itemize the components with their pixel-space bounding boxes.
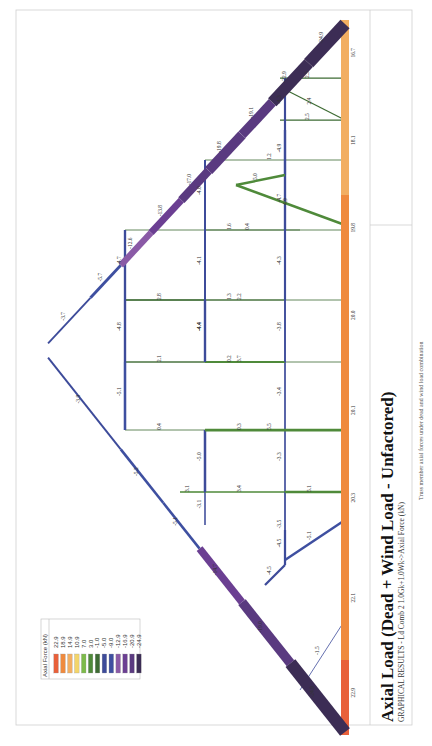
member-force-label: -4.9: [276, 144, 282, 153]
member-force-label: 18.1: [350, 135, 356, 145]
diagram-title: Axial Load (Dead + Wind Load - Unfactore…: [378, 392, 397, 722]
legend-value: 18.9: [60, 636, 66, 648]
member-force-label: -4.3: [276, 256, 282, 265]
member-force-label: -19.0: [257, 621, 263, 633]
member-force-label: -5.1: [306, 531, 312, 540]
legend-value: -5.0: [101, 637, 107, 648]
member-force-label: 16.7: [350, 48, 356, 58]
member-force-label: -4.5: [266, 566, 272, 575]
member-right-rafter: [90, 265, 120, 298]
member-force-label: 0.2: [226, 355, 232, 362]
member-force-label: -1.5: [314, 646, 320, 655]
member-left-rafter: [48, 358, 121, 450]
member-force-label: 0.4: [156, 423, 162, 430]
member-force-label: 19.8: [350, 223, 356, 233]
member-force-label: 22.9: [350, 688, 356, 698]
member-force-label: 0.4: [244, 223, 250, 230]
member-right-rafter: [48, 298, 90, 344]
legend-swatch: [75, 654, 80, 673]
member-force-label: 1.3: [226, 293, 232, 300]
legend-swatch: [95, 654, 100, 673]
member-right-rafter: [209, 135, 242, 171]
member-force-label: -4.7: [116, 256, 122, 265]
member-force-label: -19.8: [216, 141, 222, 153]
member-force-label: -3.3: [276, 452, 282, 461]
legend-swatch: [61, 654, 66, 673]
member-force-label: 0.3: [236, 423, 242, 430]
member-force-label: 20.1: [350, 405, 356, 415]
legend-swatch: [54, 654, 59, 673]
diagram-subtitle: GRAPHICAL RESULTS - Ld Comb 2 1.0Gk+1.0W…: [397, 502, 406, 722]
member-force-label: 5.0: [252, 173, 258, 180]
legend-value: -20.9: [129, 634, 135, 648]
member-force-label: -5.2: [133, 467, 139, 476]
legend-value: 3.0: [88, 639, 94, 648]
legend-swatch: [137, 654, 142, 673]
member-force-label: -5.1: [116, 387, 122, 396]
member-left-rafter: [163, 503, 199, 549]
member-force-label: 3.1: [184, 485, 190, 492]
legend-value: -9.0: [108, 637, 114, 648]
member-force-label: 2.2: [236, 293, 242, 300]
member-force-label: 5.1: [306, 485, 312, 492]
legend-swatch: [102, 654, 107, 673]
legend-value: 7.0: [81, 639, 87, 648]
member-force-label: 2.8: [156, 293, 162, 300]
legend-swatch: [109, 654, 114, 673]
member-force-label: -4.4: [196, 322, 202, 331]
member-force-label: -24.9: [318, 32, 324, 44]
member-force-label: -4.3: [276, 95, 282, 104]
member-force-label: -4.8: [116, 322, 122, 331]
legend-value: 22.9: [53, 636, 59, 648]
figure-caption: Truss member axial forces under dead and…: [418, 341, 424, 500]
member-force-label: 1.6: [226, 223, 232, 230]
legend-value: 10.9: [74, 636, 80, 648]
member-left-rafter: [200, 549, 242, 602]
member-force-label: -4.5: [276, 539, 282, 548]
page-border: [16, 10, 412, 725]
legend-value: 14.9: [67, 636, 73, 648]
member-force-label: -13.8: [157, 205, 163, 217]
member-right-rafter: [151, 200, 181, 233]
member-force-label: 3.7: [236, 355, 242, 362]
member-web: [236, 185, 345, 225]
member-force-label: -4.0: [196, 186, 202, 195]
member-force-label: -3.9: [75, 395, 81, 404]
legend-swatch: [130, 654, 135, 673]
member-left-rafter: [290, 663, 345, 732]
member-force-label: 20.0: [350, 310, 356, 320]
member-force-label: 3.4: [236, 485, 242, 492]
member-force-label: -22.9: [281, 71, 287, 83]
member-force-label: 2.5: [304, 113, 310, 120]
member-force-label: -5.1: [172, 517, 178, 526]
member-left-rafter: [121, 449, 163, 502]
legend-swatch: [81, 654, 86, 673]
member-force-label: -3.8: [276, 322, 282, 331]
member-force-label: 4.9: [282, 198, 288, 205]
member-web: [236, 175, 285, 185]
legend-value: -1.0: [94, 637, 100, 648]
member-force-label: -19.1: [248, 107, 254, 119]
member-force-label: -3.4: [276, 387, 282, 396]
member-force-label: -24.9: [309, 686, 315, 698]
legend-swatch: [116, 654, 121, 673]
member-force-label: -3.5: [276, 520, 282, 529]
member-left-rafter: [242, 602, 290, 663]
legend-swatch: [88, 654, 93, 673]
legend: Axial Force (kN) 22.918.914.910.97.03.0-…: [41, 619, 142, 679]
truss-member-labels: 1.21.61.30.2-1.50.40.40.32.12.22.42.52.5…: [60, 32, 356, 698]
member-force-label: 22.1: [350, 593, 356, 603]
legend-swatch: [123, 654, 128, 673]
member-force-label: -12.6: [127, 237, 133, 249]
legend-title: Axial Force (kN): [42, 634, 48, 677]
member-force-label: -14.7: [212, 564, 218, 576]
member-force-label: -5.7: [97, 273, 103, 282]
member-force-label: 20.3: [350, 493, 356, 503]
member-force-label: -5.0: [196, 452, 202, 461]
member-force-label: 1.2: [266, 153, 272, 160]
member-force-label: -3.7: [60, 312, 66, 321]
member-force-label: -4.1: [196, 256, 202, 265]
member-force-label: 2.1: [156, 355, 162, 362]
member-web: [284, 89, 345, 120]
member-force-label: -3.1: [196, 500, 202, 509]
